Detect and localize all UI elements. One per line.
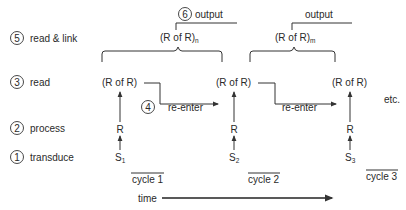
stage-label: process (30, 123, 65, 134)
output-label: output (305, 9, 333, 20)
process-node: R (230, 124, 237, 135)
cycle-1-column: (R of R) R S1 cycle 1 (102, 77, 164, 185)
read-node: (R of R) (102, 77, 137, 88)
stimulus-node: S3 (345, 152, 356, 164)
cycle-label: cycle 3 (366, 171, 398, 182)
stage-label-read-link: 5 read & link (11, 32, 79, 45)
output-line (292, 23, 352, 30)
cycle-label: cycle 2 (248, 174, 280, 185)
read-node: (R of R) (332, 77, 367, 88)
cycle-label: cycle 1 (132, 174, 164, 185)
reenter-arrow-icon (258, 83, 336, 104)
etc-label: etc. (384, 94, 400, 105)
read-node: (R of R) (216, 77, 251, 88)
reenter-connector-1: 4 re-enter (142, 83, 219, 114)
cycle-2-column: (R of R) R S2 cycle 2 (216, 77, 280, 185)
svg-text:3: 3 (14, 77, 20, 88)
output-line (176, 23, 237, 30)
stage-label-read: 3 read (11, 76, 51, 89)
svg-text:4: 4 (145, 102, 151, 113)
stimulus-node: S2 (229, 152, 240, 164)
stage-label: transduce (30, 152, 74, 163)
link-group-m: (R of R)m output (250, 9, 352, 62)
stage-label: read & link (30, 33, 78, 44)
stage-label: read (30, 77, 50, 88)
cycle-3-column: (R of R) R S3 cycle 3 (332, 77, 398, 182)
stage-label-process: 2 process (11, 122, 66, 135)
svg-text:5: 5 (14, 33, 20, 44)
svg-text:6: 6 (182, 9, 188, 20)
reenter-arrow-icon (144, 83, 218, 104)
svg-text:1: 1 (14, 152, 20, 163)
svg-text:2: 2 (14, 123, 20, 134)
reenter-label: re-enter (168, 102, 204, 113)
time-axis: time (138, 193, 332, 204)
brace-icon (250, 47, 335, 62)
linked-node: (R of R)n (160, 32, 199, 44)
output-label: output (195, 9, 223, 20)
reenter-label: re-enter (282, 102, 318, 113)
reenter-connector-2: re-enter (258, 83, 336, 113)
link-group-n: (R of R)n 6 output (102, 8, 237, 63)
stage-label-transduce: 1 transduce (11, 151, 75, 164)
time-label: time (138, 193, 157, 204)
process-node: R (116, 124, 123, 135)
linked-node: (R of R)m (275, 32, 315, 44)
cognitive-cycle-diagram: 5 read & link 3 read 2 process 1 transdu… (0, 0, 406, 210)
process-node: R (346, 124, 353, 135)
brace-icon (102, 47, 222, 62)
stimulus-node: S1 (115, 152, 126, 164)
